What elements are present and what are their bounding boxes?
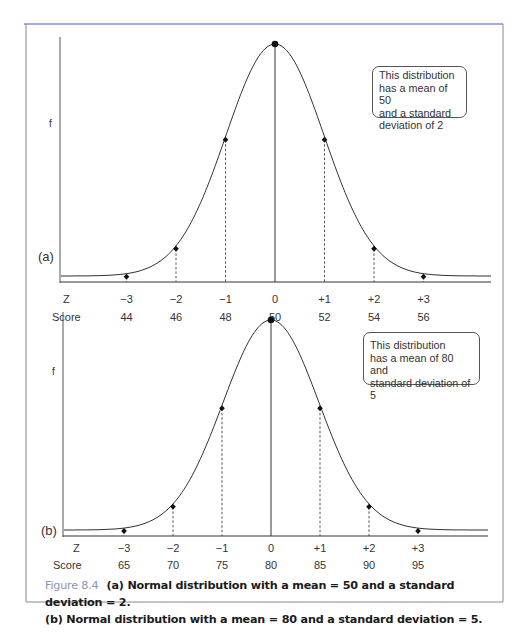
score-tick-label: 52 [318, 311, 330, 323]
caption-line-2: (b) Normal distribution with a mean = 80… [45, 611, 515, 628]
chart-a-annotation-line: This distribution [379, 69, 460, 82]
score-tick-label: 95 [412, 559, 424, 571]
diamond-marker-icon [124, 274, 130, 280]
chart-b-panel-label: (b) [41, 523, 57, 538]
chart-a-annotation-line: deviation of 2 [379, 119, 460, 132]
z-tick-label: +1 [318, 293, 331, 305]
score-tick-label: 70 [167, 559, 179, 571]
figure-label: Figure 8.4 [45, 579, 99, 592]
z-tick-label: +1 [314, 542, 327, 554]
score-tick-label: 46 [170, 311, 182, 323]
z-tick-label: −2 [167, 542, 180, 554]
z-tick-label: +2 [368, 293, 381, 305]
score-tick-label: 75 [216, 559, 228, 571]
z-tick-label: 0 [272, 293, 278, 305]
score-tick-label: 80 [265, 559, 277, 571]
chart-a-ylabel: f [49, 118, 52, 129]
diamond-marker-icon [121, 528, 127, 534]
z-tick-label: −2 [170, 293, 183, 305]
score-tick-label: 90 [363, 559, 375, 571]
caption-line-1: Figure 8.4(a) Normal distribution with a… [45, 577, 515, 611]
diamond-marker-icon [415, 528, 421, 534]
chart-a-annotation: This distribution has a mean of 50 and a… [372, 66, 467, 118]
diamond-marker-icon [421, 274, 427, 280]
diamond-marker-icon [371, 246, 377, 252]
score-tick-label: 44 [120, 311, 132, 323]
score-tick-label: 65 [118, 559, 130, 571]
chart-b-z-row-label: Z [73, 542, 80, 554]
z-tick-label: −1 [219, 293, 232, 305]
diamond-marker-icon [366, 504, 372, 510]
caption-text-b: (b) Normal distribution with a mean = 80… [45, 613, 482, 626]
chart-b-annotation-line: This distribution [370, 339, 473, 352]
score-tick-label: 54 [368, 311, 380, 323]
chart-a-annotation-line: and a standard [379, 107, 460, 120]
caption-text-a: (a) Normal distribution with a mean = 50… [45, 579, 454, 609]
chart-a-score-row-label: Score [52, 311, 81, 323]
chart-b-peak-point [268, 317, 275, 324]
chart-a-annotation-line: has a mean of 50 [379, 82, 460, 107]
score-tick-label: 85 [314, 559, 326, 571]
figure-caption: Figure 8.4(a) Normal distribution with a… [45, 577, 515, 628]
diamond-marker-icon [170, 504, 176, 510]
z-tick-label: +3 [412, 542, 425, 554]
z-tick-label: +3 [417, 293, 430, 305]
z-tick-label: −1 [216, 542, 229, 554]
z-tick-label: 0 [268, 542, 274, 554]
figure: f (a) Z Score −344−246−148050+152+254+35… [0, 0, 524, 634]
chart-b-tick-labels: −365−270−175080+185+290+395 [118, 542, 425, 571]
chart-a-panel-label: (a) [38, 249, 54, 264]
chart-a-peak-point [272, 41, 279, 48]
chart-b-ylabel: f [52, 366, 55, 377]
diamond-marker-icon [173, 246, 179, 252]
chart-a-z-row-label: Z [63, 293, 70, 305]
z-tick-label: −3 [120, 293, 133, 305]
z-tick-label: +2 [363, 542, 376, 554]
chart-b-score-row-label: Score [53, 559, 82, 571]
chart-b-annotation-line: has a mean of 80 and [370, 352, 473, 377]
chart-a-tick-labels: −344−246−148050+152+254+356 [120, 293, 430, 323]
z-tick-label: −3 [118, 542, 131, 554]
chart-b-annotation: This distribution has a mean of 80 and s… [363, 332, 480, 385]
score-tick-label: 56 [417, 311, 429, 323]
chart-b-annotation-line: standard deviation of 5 [370, 377, 473, 402]
score-tick-label: 48 [219, 311, 231, 323]
